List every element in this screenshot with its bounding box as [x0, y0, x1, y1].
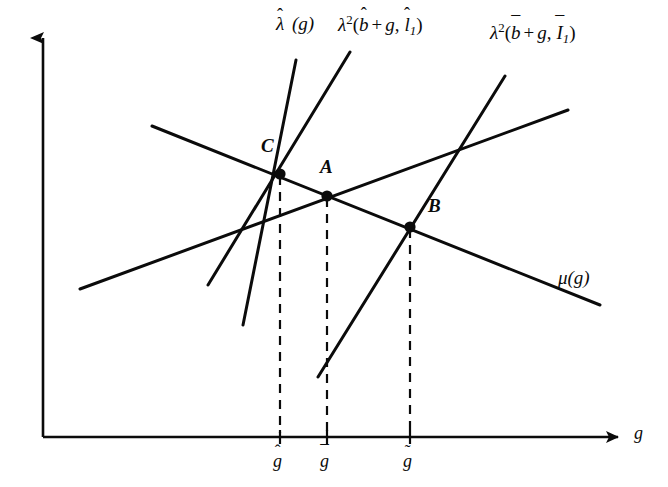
b-symbol: b	[511, 23, 521, 42]
plus-sign: +	[372, 14, 383, 35]
curve-label-lambda-hat: λ ˆ (g)	[276, 14, 314, 33]
drop-line-group	[280, 176, 410, 433]
g-symbol: g	[403, 452, 412, 470]
g-symbol: g	[537, 22, 547, 43]
comma: ,	[395, 14, 400, 35]
point-marker-b	[404, 221, 415, 232]
point-marker-a	[321, 190, 332, 201]
b-bar-accent-glyph: b¯	[511, 23, 521, 42]
g-tilde-accent-glyph: g ˜	[403, 452, 412, 470]
paren-close: )	[416, 14, 422, 35]
lambda-symbol: λ	[338, 14, 346, 35]
tick-label-g-bar: g ¯	[320, 452, 329, 470]
mu-argument: (g)	[568, 267, 590, 288]
i-bar-accent-glyph: I¯	[556, 23, 562, 42]
curve-lambda-hat	[243, 60, 296, 325]
plus-sign: +	[524, 22, 535, 43]
paren-close: )	[569, 22, 575, 43]
curve-label-mu: μ(g)	[558, 268, 590, 287]
g-symbol: g	[320, 452, 329, 470]
g-symbol: g	[385, 14, 395, 35]
point-marker-c	[274, 168, 285, 179]
point-label-c: C	[261, 136, 274, 155]
lambda-symbol: λ	[490, 22, 498, 43]
tick-label-g-hat: g ˆ	[273, 452, 282, 470]
curve-mu	[152, 126, 600, 305]
g-hat-accent-glyph: g ˆ	[273, 452, 282, 470]
b-hat-accent-glyph: bˆ	[359, 15, 369, 34]
i-hat-accent-glyph: lˆ	[404, 15, 409, 34]
x-axis-label: g	[634, 424, 643, 442]
diagram-svg	[0, 0, 668, 487]
curve-label-lambda2-hat: λ2(bˆ+g,lˆ1)	[338, 14, 423, 38]
comma: ,	[547, 22, 552, 43]
point-label-b: B	[428, 196, 441, 215]
curve-label-lambda2-bar: λ2(b¯+g,I¯1)	[490, 22, 576, 46]
tick-label-g-tilde: g ˜	[403, 452, 412, 470]
lambda-symbol: λ	[276, 14, 284, 33]
lambda-hat-argument: (g)	[292, 13, 314, 34]
curve-group	[80, 52, 600, 377]
axis-group	[43, 38, 618, 437]
g-bar-accent-glyph: g ¯	[320, 452, 329, 470]
point-label-a: A	[320, 157, 333, 176]
figure-canvas: λ ˆ (g) λ2(bˆ+g,lˆ1) λ2(b¯+g,I¯1) μ(g) C…	[0, 0, 668, 487]
lambda-hat-accent-glyph: λ ˆ	[276, 14, 284, 33]
i-symbol: I	[556, 23, 562, 42]
g-symbol: g	[273, 452, 282, 470]
i-symbol: l	[404, 15, 409, 34]
mu-symbol: μ	[558, 267, 568, 288]
b-symbol: b	[359, 15, 369, 34]
